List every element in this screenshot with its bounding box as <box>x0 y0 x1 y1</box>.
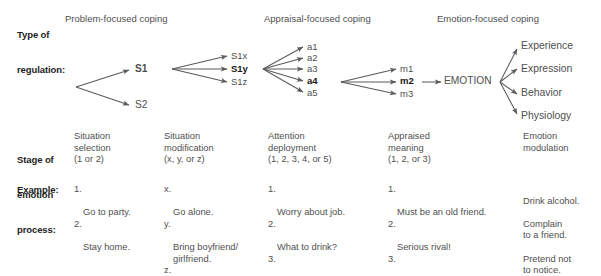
node-m1: m1 <box>400 64 413 74</box>
node-emotion: EMOTION <box>444 76 492 86</box>
list-marker: 1. <box>388 184 396 196</box>
list-item: 1. Go to party. <box>74 184 158 219</box>
list-item: Pretend not to notice. <box>523 242 601 276</box>
example-cell-situation-modification: x. Go alone. y. Bring boyfriend/ girlfri… <box>164 184 264 276</box>
list-item: Complain to a friend. <box>523 207 601 242</box>
type-of-regulation-label-line-2: regulation: <box>17 64 65 76</box>
node-a3: a3 <box>307 64 318 74</box>
list-text: Serious rival! <box>397 242 451 252</box>
list-item: 2. Stay home. <box>74 219 158 254</box>
list-text: Pretend not to notice. <box>523 254 571 276</box>
node-s1x: S1x <box>231 51 247 61</box>
stage-cell-situation-selection: Situation selection (1 or 2) <box>74 131 111 166</box>
type-of-regulation-label-line-1: Type of <box>17 29 65 41</box>
node-s1: S1 <box>135 64 147 74</box>
node-a4: a4 <box>307 76 318 86</box>
node-s1y: S1y <box>231 64 248 74</box>
list-marker: 2. <box>268 219 276 231</box>
example-cell-situation-selection: 1. Go to party. 2. Stay home. <box>74 184 158 254</box>
node-behavior: Behavior <box>521 88 562 98</box>
list-text: Go to party. <box>83 207 131 217</box>
coping-header-appraisal-focused: Appraisal-focused coping <box>264 13 371 25</box>
list-marker: 1. <box>268 184 276 196</box>
coping-header-emotion-focused: Emotion-focused coping <box>437 13 539 25</box>
list-text: Drink alcohol. <box>523 196 579 206</box>
list-text: Stay home. <box>83 242 130 252</box>
node-m2: m2 <box>400 76 414 86</box>
example-cell-appraised-meaning: 1. Must be an old friend. 2. Serious riv… <box>388 184 516 276</box>
example-row-label: Example: <box>17 184 58 196</box>
node-experience: Experience <box>521 41 573 51</box>
node-physiology: Physiology <box>521 111 571 121</box>
node-s1z: S1z <box>231 77 247 87</box>
node-a1: a1 <box>307 42 318 52</box>
list-item: Drink alcohol. <box>523 184 601 207</box>
stage-cell-situation-modification: Situation modification (x, y, or z) <box>164 131 214 166</box>
list-marker: y. <box>164 219 171 231</box>
type-of-regulation-label: Type of regulation: <box>17 6 65 99</box>
list-marker: 2. <box>388 219 396 231</box>
list-marker: z. <box>164 265 171 276</box>
list-text: Complain to a friend. <box>523 219 567 241</box>
node-m3: m3 <box>400 89 413 99</box>
example-cell-emotion-modulation: Drink alcohol. Complain to a friend. Pre… <box>523 184 601 276</box>
list-item: y. Bring boyfriend/ girlfriend. <box>164 219 264 265</box>
list-text: Go alone. <box>173 207 213 217</box>
list-item: z. Bring friend. <box>164 265 264 276</box>
list-marker: 1. <box>74 184 82 196</box>
stage-label-line-3: process: <box>17 224 56 236</box>
list-item: 1. Must be an old friend. <box>388 184 516 219</box>
list-marker: x. <box>164 184 171 196</box>
list-text: Must be an old friend. <box>397 207 486 217</box>
coping-header-problem-focused: Problem-focused coping <box>65 13 167 25</box>
example-cell-attention-deployment: 1. Worry about job. 2. What to drink? 3.… <box>268 184 380 276</box>
node-a5: a5 <box>307 88 318 98</box>
stage-label-line-1: Stage of <box>17 154 56 166</box>
list-marker: 3. <box>268 254 276 266</box>
stage-cell-attention-deployment: Attention deployment (1, 2, 3, 4, or 5) <box>268 131 332 166</box>
emotion-regulation-diagram: Type of regulation: Problem-focused copi… <box>0 0 601 276</box>
list-marker: 3. <box>388 254 396 266</box>
list-marker: 2. <box>74 219 82 231</box>
node-s2: S2 <box>135 100 147 110</box>
node-a2: a2 <box>307 53 318 63</box>
list-text: Worry about job. <box>277 207 345 217</box>
list-text: Bring boyfriend/ girlfriend. <box>173 242 238 264</box>
stage-cell-appraised-meaning: Appraised meaning (1, 2, or 3) <box>388 131 431 166</box>
list-item: 3. Notice old friend. <box>268 254 380 276</box>
node-expression: Expression <box>521 64 572 74</box>
list-item: x. Go alone. <box>164 184 264 219</box>
list-text: What to drink? <box>277 242 337 252</box>
list-item: 2. Serious rival! <box>388 219 516 254</box>
list-item: 3. Meaningless flirtation. <box>388 254 516 276</box>
list-item: 1. Worry about job. <box>268 184 380 219</box>
list-item: 2. What to drink? <box>268 219 380 254</box>
stage-cell-emotion-modulation: Emotion modulation <box>523 131 568 154</box>
